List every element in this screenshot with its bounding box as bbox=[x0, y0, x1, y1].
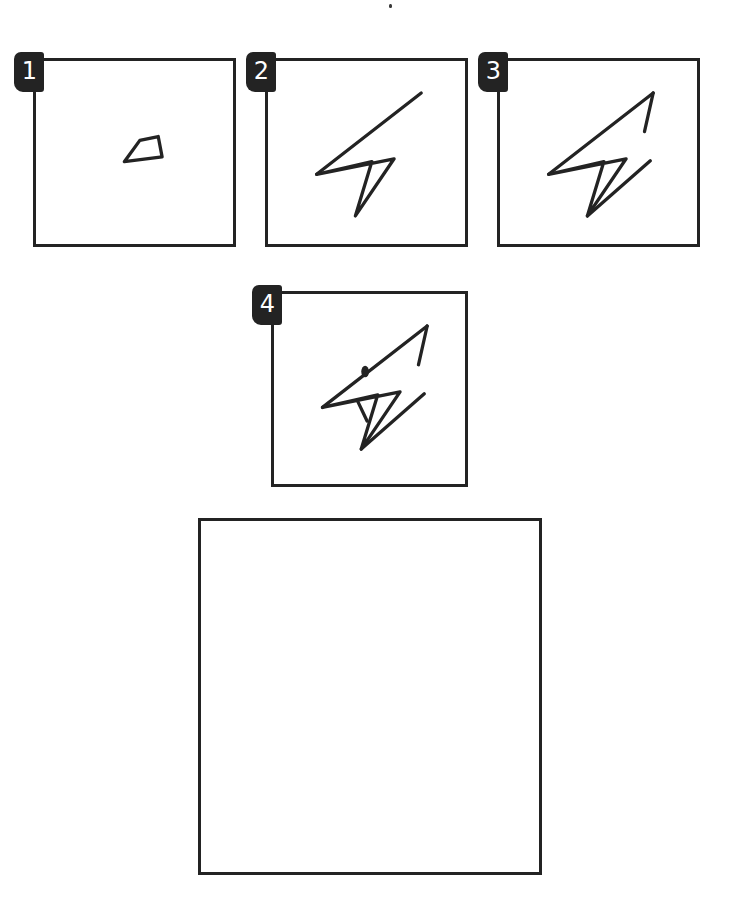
lower-wedge-stroke bbox=[549, 159, 626, 216]
step-number-2: 2 bbox=[246, 52, 276, 88]
badge-mask-2 bbox=[273, 83, 299, 103]
step-badge-4: 4 bbox=[252, 285, 282, 325]
badge-mask-1 bbox=[41, 83, 67, 103]
step-panel-1[interactable]: 1 bbox=[33, 58, 236, 247]
step-number-4: 4 bbox=[252, 285, 282, 321]
worksheet-sheet: 1 2 3 bbox=[0, 0, 752, 909]
step-panel-4[interactable]: 4 bbox=[271, 291, 468, 487]
badge-mask-4 bbox=[279, 316, 305, 336]
step-badge-2: 2 bbox=[246, 52, 276, 92]
lower-wedge-stroke bbox=[317, 159, 394, 216]
step-number-3: 3 bbox=[478, 52, 508, 88]
beak-outline-stroke bbox=[124, 137, 162, 162]
step-badge-3: 3 bbox=[478, 52, 508, 92]
step-panel-3[interactable]: 3 bbox=[497, 58, 700, 247]
badge-mask-3 bbox=[505, 83, 531, 103]
step-number-1: 1 bbox=[14, 52, 44, 88]
lower-wedge-stroke bbox=[322, 392, 400, 449]
inner-crease-stroke bbox=[357, 401, 367, 421]
eye-dot bbox=[361, 366, 369, 378]
stray-speck bbox=[389, 4, 392, 8]
step-panel-2[interactable]: 2 bbox=[265, 58, 468, 247]
step-badge-1: 1 bbox=[14, 52, 44, 92]
practice-box[interactable] bbox=[198, 518, 542, 875]
